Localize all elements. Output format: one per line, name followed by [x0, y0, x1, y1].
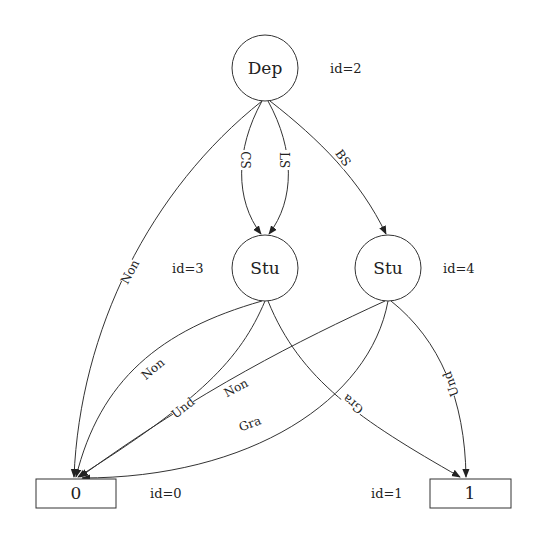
node-dep: Dep id=2	[232, 35, 362, 101]
node-stu-4: Stu id=4	[355, 235, 475, 301]
edge-stu3-to-1-gra	[268, 301, 460, 477]
edge-label-stu3-1-gra: Gra	[340, 391, 366, 416]
node-terminal-0-id: id=0	[150, 486, 182, 501]
node-stu-4-id: id=4	[443, 261, 475, 276]
node-dep-label: Dep	[248, 58, 283, 78]
edge-label-stu3-0-und: Und	[169, 394, 198, 421]
decision-diagram: Non CS LS BS Non Und Gra Non	[0, 0, 539, 542]
node-stu-4-label: Stu	[373, 258, 402, 278]
node-stu-3-label: Stu	[250, 258, 279, 278]
edge-label-stu3-0-non: Non	[139, 355, 168, 382]
edge-label-stu4-0-gra: Gra	[237, 414, 263, 435]
node-stu-3-id: id=3	[172, 261, 204, 276]
edge-label-dep-stu3-cs: CS	[238, 151, 252, 168]
edge-label-dep-stu3-ls: LS	[277, 152, 291, 168]
edge-label-dep-stu4-bs: BS	[332, 147, 353, 169]
edge-label-stu4-1-und: Und	[440, 369, 462, 398]
edge-label-stu4-0-non: Non	[221, 376, 250, 400]
node-terminal-1-label: 1	[465, 483, 476, 503]
edge-label-dep-0-non: Non	[118, 257, 142, 286]
node-terminal-0-label: 0	[71, 483, 82, 503]
node-stu-3: Stu id=3	[172, 235, 298, 301]
node-terminal-1-id: id=1	[371, 486, 403, 501]
node-dep-id: id=2	[330, 61, 362, 76]
edge-dep-to-0-non	[74, 101, 262, 477]
node-terminal-1: 1 id=1	[371, 479, 511, 508]
node-terminal-0: 0 id=0	[36, 479, 182, 508]
